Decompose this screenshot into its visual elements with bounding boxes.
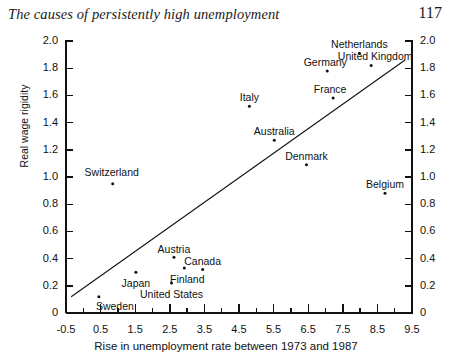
point-label-canada: Canada — [184, 255, 221, 267]
data-point-united-kingdom — [370, 64, 373, 67]
y-tick-label-left: 1.6 — [28, 88, 58, 100]
y-tick-label-left: 2.0 — [28, 34, 58, 46]
point-label-united-kingdom: United Kingdom — [338, 50, 413, 62]
y-tick-label-left: 0.8 — [28, 197, 58, 209]
x-tick-label: 9.5 — [392, 323, 432, 335]
y-tick-label-right: 1.2 — [420, 143, 450, 155]
data-point-austria — [172, 256, 175, 259]
y-tick-label-right: 1.4 — [420, 116, 450, 128]
trendline-path — [71, 60, 405, 297]
y-tick-label-left: 0.4 — [28, 252, 58, 264]
data-point-australia — [273, 139, 276, 142]
x-axis-title: Rise in unemployment rate between 1973 a… — [0, 340, 452, 352]
data-point-italy — [248, 105, 251, 108]
data-point-denmark — [305, 163, 308, 166]
y-tick-label-left: 1.4 — [28, 116, 58, 128]
y-tick-label-right: 0.4 — [420, 252, 450, 264]
point-label-netherlands: Netherlands — [331, 38, 388, 50]
data-point-japan — [134, 271, 137, 274]
point-label-denmark: Denmark — [285, 150, 328, 162]
y-tick-label-right: 1.0 — [420, 170, 450, 182]
y-tick-label-right: 0.6 — [420, 224, 450, 236]
y-tick-label-left: 1.0 — [28, 170, 58, 182]
y-tick-label-right: 1.8 — [420, 61, 450, 73]
point-label-united-states: United States — [140, 288, 203, 300]
data-point-belgium — [384, 192, 387, 195]
point-label-sweden: Sweden — [96, 300, 134, 312]
y-tick-label-right: 2.0 — [420, 34, 450, 46]
data-point-switzerland — [111, 182, 114, 185]
point-label-italy: Italy — [240, 91, 259, 103]
y-tick-label-left: 0.2 — [28, 279, 58, 291]
y-axis-title: Real wage rigidity — [18, 66, 30, 186]
data-point-sweden — [97, 295, 100, 298]
point-label-belgium: Belgium — [366, 178, 404, 190]
y-tick-label-right: 0.2 — [420, 279, 450, 291]
point-label-switzerland: Switzerland — [85, 166, 139, 178]
data-point-germany — [326, 69, 329, 72]
y-tick-label-right: 1.6 — [420, 88, 450, 100]
point-label-france: France — [314, 83, 347, 95]
data-point-canada — [201, 268, 204, 271]
y-tick-label-left: 1.2 — [28, 143, 58, 155]
y-tick-label-left: 0 — [28, 306, 58, 318]
y-tick-label-right: 0.8 — [420, 197, 450, 209]
y-tick-label-left: 1.8 — [28, 61, 58, 73]
point-label-finland: Finland — [170, 273, 204, 285]
page-root: The causes of persistently high unemploy… — [0, 0, 452, 363]
point-label-australia: Australia — [254, 125, 295, 137]
trendline — [71, 60, 405, 297]
point-label-austria: Austria — [158, 243, 191, 255]
data-point-france — [332, 97, 335, 100]
y-tick-label-right: 0 — [420, 306, 450, 318]
y-tick-label-left: 0.6 — [28, 224, 58, 236]
scatter-chart: 00.20.40.60.81.01.21.41.61.82.0 00.20.40… — [0, 0, 452, 363]
